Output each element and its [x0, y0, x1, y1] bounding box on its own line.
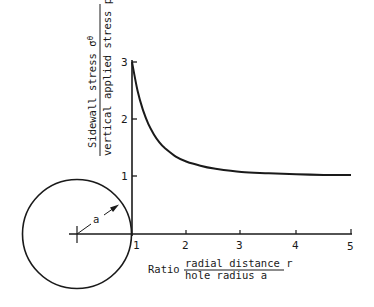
stress-curve [132, 62, 351, 175]
x-label-prefix: Ratio [148, 263, 180, 275]
x-tick-label-1: 1 [133, 239, 140, 252]
stress-ratio-chart: 3 2 1 1 2 3 4 5 a Sidewall stress σθ ver… [0, 0, 374, 307]
radius-line-a [77, 224, 91, 234]
radius-label: a [93, 213, 99, 225]
y-label-numerator: Sidewall stress σθ [86, 36, 98, 148]
arrow-head-icon [110, 205, 119, 213]
y-tick-label-1: 1 [121, 170, 128, 183]
x-tick-label-4: 4 [292, 239, 299, 252]
x-tick-label-5: 5 [347, 240, 354, 253]
y-label-denominator: vertical applied stress pz [101, 0, 115, 156]
y-tick-label-2: 2 [121, 113, 128, 126]
x-tick-label-2: 2 [182, 239, 189, 252]
x-label-numerator: radial distance r [185, 257, 292, 269]
x-tick-label-3: 3 [236, 239, 243, 252]
x-label-denominator: hole radius a [185, 269, 267, 281]
y-axis-label: Sidewall stress σθ vertical applied stre… [86, 0, 115, 156]
y-tick-label-3: 3 [121, 56, 128, 69]
